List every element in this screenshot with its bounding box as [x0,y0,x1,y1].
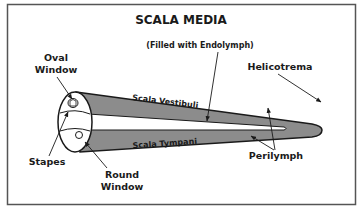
label-oval-window-1: Oval [44,52,68,63]
scala-media-diagram: SCALA MEDIA (Filled with Endolymph) Scal… [0,0,364,211]
label-round-window-1: Round [105,169,139,180]
cochlea-base [58,92,92,152]
label-round-window-2: Window [101,181,144,192]
round-window-shape [76,132,83,139]
label-stapes: Stapes [29,156,66,167]
label-helicotrema: Helicotrema [247,61,312,72]
subtitle-endolymph: (Filled with Endolymph) [146,41,253,50]
label-perilymph: Perilymph [249,150,303,161]
diagram-title: SCALA MEDIA [135,13,227,27]
label-oval-window-2: Window [35,64,78,75]
